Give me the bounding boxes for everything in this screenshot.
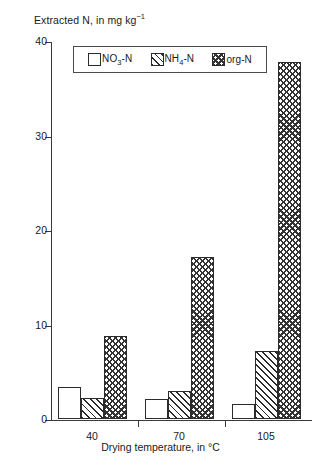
bar-no3n-105: [232, 404, 255, 419]
x-axis-title: Drying temperature, in °C: [0, 441, 321, 453]
legend-swatch-nh4n-icon: [151, 53, 164, 66]
chart-figure: Extracted N, in mg kg−1 0 10 20 30 40: [0, 0, 321, 475]
y-tick-label-20: 20: [35, 224, 47, 236]
legend-label-no3n: NO3-N: [102, 53, 132, 67]
legend-swatch-no3n-icon: [88, 53, 101, 66]
chart-legend: NO3-N NH4-N org-N: [73, 46, 267, 73]
legend-item-nh4n: NH4-N: [151, 53, 195, 67]
bar-nh4n-40: [81, 398, 104, 419]
legend-swatch-orgn-icon: [212, 53, 225, 66]
bar-no3n-70: [145, 399, 168, 419]
bar-orgn-70: [191, 257, 214, 419]
bar-orgn-40: [104, 336, 127, 419]
y-tick-label-10: 10: [35, 319, 47, 331]
y-tick-label-0: 0: [41, 413, 47, 425]
plot-area: 0 10 20 30 40 40: [51, 42, 312, 420]
y-axis-title-main: Extracted N, in mg kg: [34, 14, 136, 26]
y-tick-label-30: 30: [35, 130, 47, 142]
legend-label-no3n-tail: -N: [122, 53, 133, 64]
x-tick-divider-2: [225, 421, 226, 427]
legend-label-nh4n: NH4-N: [165, 53, 195, 67]
legend-label-orgn: org-N: [226, 54, 252, 65]
bar-nh4n-105: [255, 351, 278, 419]
legend-label-nh4n-main: NH: [165, 53, 180, 64]
y-axis-spine: [51, 42, 52, 421]
y-axis-title: Extracted N, in mg kg−1: [34, 11, 145, 26]
legend-label-orgn-main: org-N: [226, 54, 252, 65]
legend-label-nh4n-tail: -N: [183, 53, 194, 64]
x-tick-divider-1: [138, 421, 139, 427]
x-axis-spine: [51, 420, 312, 421]
bar-no3n-40: [58, 387, 81, 419]
legend-label-no3n-main: NO: [102, 53, 117, 64]
y-axis-title-superscript: −1: [136, 12, 145, 21]
bar-orgn-105: [278, 62, 301, 419]
legend-item-orgn: org-N: [212, 53, 252, 66]
y-tick-label-40: 40: [35, 35, 47, 47]
legend-item-no3n: NO3-N: [88, 53, 132, 67]
bar-nh4n-70: [168, 391, 191, 419]
